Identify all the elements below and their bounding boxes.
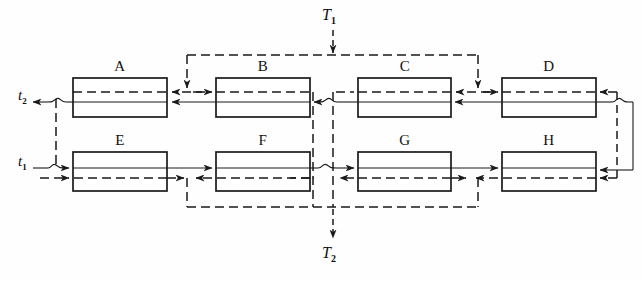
figure-container: A B C D E F G H t2 t1 T1 T2 <box>0 0 643 281</box>
temperature-label-T1: T1 <box>322 6 336 26</box>
stream-label-t1: t1 <box>18 153 27 172</box>
box-label-E: E <box>100 132 140 149</box>
temperature-label-T2: T2 <box>322 244 336 264</box>
box-label-B: B <box>243 58 283 75</box>
box-outline-G <box>358 152 451 191</box>
box-label-C: C <box>385 58 425 75</box>
box-outline-C <box>358 78 451 117</box>
box-outline-B <box>216 78 310 117</box>
temperature-label-T2-text: T <box>322 244 331 261</box>
box-label-H: H <box>529 132 569 149</box>
box-outline-E <box>73 152 167 191</box>
temperature-label-T1-sub: 1 <box>331 15 336 26</box>
box-outline-H <box>502 152 596 191</box>
box-label-G: G <box>385 132 425 149</box>
stream-label-t2-sub: 2 <box>22 96 27 106</box>
box-label-D: D <box>529 58 569 75</box>
box-label-A: A <box>100 58 140 75</box>
box-outline-D <box>502 78 596 117</box>
temperature-label-T1-text: T <box>322 6 331 23</box>
box-outline-A <box>73 78 167 117</box>
box-outline-F <box>216 152 310 191</box>
box-label-F: F <box>243 132 283 149</box>
temperature-label-T2-sub: 2 <box>331 253 336 264</box>
stream-label-t2: t2 <box>18 87 27 106</box>
stream-label-t1-sub: 1 <box>22 162 27 172</box>
